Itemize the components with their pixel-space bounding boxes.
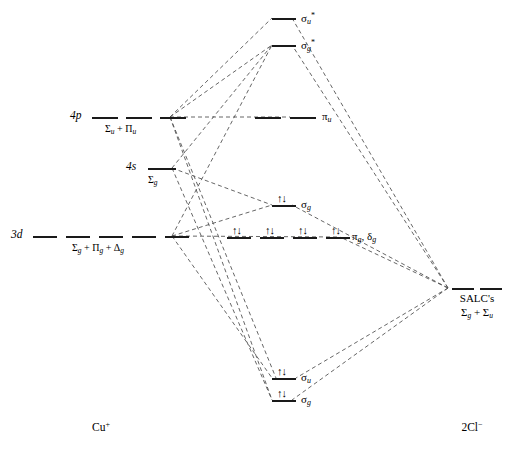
- mo-level-pgdg-3: [293, 237, 317, 239]
- sym-4s-sigma-g: Σg: [148, 174, 158, 185]
- mo-label-sigma-g-star: σg*: [301, 39, 315, 53]
- ao-4s-l: s: [132, 160, 136, 172]
- salc-caption: SALC's Σg + Σu: [444, 292, 510, 320]
- fragment-left-text: Cu: [92, 421, 105, 433]
- ao-level-3d-4: [132, 236, 156, 238]
- salc-sym-sigma-u: Σu: [483, 306, 493, 318]
- mo-sub-sigma-g-bonding: g: [307, 398, 311, 407]
- mo-level-sigma-g-nb: [272, 205, 296, 207]
- ao-4p-l: p: [76, 109, 82, 121]
- fragment-right-text: 2Cl: [461, 421, 478, 433]
- sym-4p-sigma-u: Σu: [105, 123, 115, 134]
- mo-sep-pgdg: ,: [362, 230, 368, 242]
- mo-level-pgdg-2: [260, 237, 284, 239]
- salc-sym-plus: +: [471, 306, 483, 318]
- link-4p-sigma-g-bonding: [170, 117, 272, 400]
- ao-label-3d: 3d: [11, 229, 23, 241]
- link-3d-sigma-g-nb: [172, 205, 272, 236]
- ao-level-3d-3: [99, 236, 123, 238]
- sym-4p-pi-u: Πu: [125, 123, 136, 134]
- sym-3d-plus-2: +: [103, 242, 114, 253]
- ao-3d-l: d: [17, 228, 23, 240]
- electron-pair-pgdg-4: ↑↓: [331, 225, 340, 236]
- ao-label-4s: 4s: [126, 161, 136, 173]
- electron-pair-sigma-g-bonding: ↑↓: [277, 388, 286, 399]
- salc-symmetry: Σg + Σu: [444, 306, 510, 320]
- link-salc-sigma-u-star: [292, 18, 448, 288]
- mo-label-pi-g-delta-g: πg, δg: [352, 231, 376, 244]
- sym-4p-plus: +: [115, 123, 126, 134]
- correlation-lines: [0, 0, 510, 450]
- link-salc-sigma-u-bonding: [296, 288, 448, 378]
- mo-sup-sigma-u-star: *: [311, 11, 315, 20]
- mo-label-sigma-g-nb: σg: [301, 199, 311, 212]
- link-3d-sigma-g-star: [172, 45, 272, 236]
- electron-pair-pgdg-2: ↑↓: [265, 225, 274, 236]
- mo-level-pi-u-1: [255, 117, 281, 119]
- mo-sub-delta-g: g: [372, 235, 376, 244]
- mo-level-pi-u-2: [290, 117, 316, 119]
- sym-3d-plus-1: +: [82, 242, 93, 253]
- electron-pair-sigma-g-nb: ↑↓: [277, 193, 286, 204]
- mo-label-sigma-u-star: σu*: [301, 12, 315, 26]
- ao-level-4p-3: [160, 117, 186, 119]
- electron-pair-sigma-u-bonding: ↑↓: [277, 366, 286, 377]
- fragment-right-charge: −: [478, 420, 483, 429]
- mo-sub-sigma-u-bonding: u: [307, 376, 311, 385]
- mo-level-sigma-g-bonding: [272, 400, 296, 402]
- link-salc-sigma-g-bonding: [292, 288, 448, 400]
- link-3d-sigma-u-bonding: [172, 236, 272, 378]
- fragment-left-charge: +: [105, 420, 110, 429]
- link-4p-sigma-g-star: [170, 45, 272, 117]
- link-4p-sigma-u-star: [170, 18, 272, 117]
- link-4s-sigma-g-nb: [172, 168, 272, 205]
- ao-level-4s-1: [148, 168, 176, 170]
- ao-symmetry-4p: Σu + Πu: [105, 124, 136, 136]
- mo-label-pi-u: πu: [322, 111, 332, 124]
- fragment-label-left: Cu+: [66, 420, 136, 433]
- link-4s-sigma-g-bonding: [172, 168, 272, 400]
- ao-level-3d-5: [165, 236, 189, 238]
- salc-sym-sigma-g: Σg: [461, 306, 471, 318]
- electron-pair-pgdg-1: ↑↓: [232, 225, 241, 236]
- ao-level-3d-1: [33, 236, 57, 238]
- mo-level-sigma-u-bonding: [272, 378, 296, 380]
- salc-caption-text: SALC's: [444, 292, 510, 306]
- mo-label-sigma-g-bonding: σg: [301, 394, 311, 407]
- mo-sup-sigma-g-star: *: [311, 38, 315, 47]
- mo-level-pgdg-4: [326, 237, 350, 239]
- ao-level-4p-1: [92, 117, 118, 119]
- ao-level-4p-2: [126, 117, 152, 119]
- link-4p-sigma-u-bonding: [170, 117, 276, 378]
- sym-3d-sigma-g: Σg: [72, 242, 82, 253]
- fragment-label-right: 2Cl−: [440, 420, 504, 433]
- salc-level-2: [480, 288, 502, 290]
- electron-pair-pgdg-3: ↑↓: [298, 225, 307, 236]
- ao-level-3d-2: [66, 236, 90, 238]
- sym-3d-delta-g: Δg: [114, 242, 124, 253]
- ao-symmetry-4s: Σg: [148, 175, 158, 187]
- mo-sub-pi-u: u: [328, 115, 332, 124]
- mo-level-pgdg-1: [227, 237, 251, 239]
- link-4s-sigma-g-star: [172, 45, 272, 168]
- sym-3d-pi-g: Πg: [92, 242, 103, 253]
- mo-diagram: 4p Σu + Πu 4s Σg 3d Σg + Πg + Δg σu* σg*…: [0, 0, 510, 450]
- mo-sub-sigma-g-nb: g: [307, 203, 311, 212]
- mo-level-sigma-g-star: [272, 45, 296, 47]
- link-salc-sigma-g-nb: [292, 205, 448, 288]
- ao-symmetry-3d: Σg + Πg + Δg: [72, 243, 124, 255]
- ao-label-4p: 4p: [70, 110, 82, 122]
- salc-level-1: [452, 288, 474, 290]
- mo-label-sigma-u-bonding: σu: [301, 372, 311, 385]
- mo-level-sigma-u-star: [272, 18, 296, 20]
